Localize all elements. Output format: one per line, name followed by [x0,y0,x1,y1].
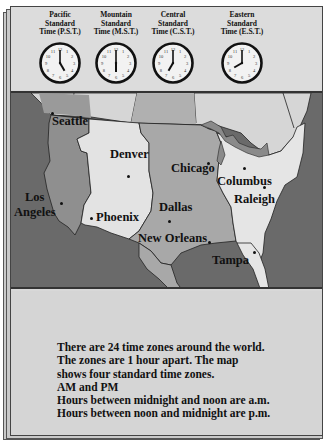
clock-icon: 123456789101112 [220,41,264,85]
time-zone-map: Seattle Denver Chicago Columbus Los Ange… [11,91,322,289]
svg-text:11: 11 [107,48,111,53]
info-line: Hours between noon and midnight are p.m. [57,407,270,420]
svg-text:10: 10 [228,54,233,59]
time-zone-page: Pacific Standard Time (P.S.T.) 123456789… [10,6,323,436]
svg-text:11: 11 [51,48,55,53]
svg-text:11: 11 [164,48,168,53]
svg-text:1: 1 [66,48,68,53]
city-dot-denver [127,175,130,178]
city-label-seattle: Seattle [52,115,88,128]
city-label-los: Los [25,191,44,204]
svg-text:10: 10 [159,54,164,59]
city-label-phoenix: Phoenix [96,211,139,224]
svg-text:10: 10 [102,54,107,59]
city-dot-new-orleans [208,241,211,244]
svg-text:2: 2 [127,54,129,59]
city-label-new-orleans: New Orleans [138,232,207,245]
city-dot-tampa [253,251,256,254]
svg-text:2: 2 [253,54,255,59]
info-text: There are 24 time zones around the world… [57,341,270,421]
city-label-dallas: Dallas [159,201,192,214]
info-line: Hours between midnight and noon are a.m. [57,394,270,407]
info-line: shows four standard time zones. [57,368,270,381]
clocks-panel: Pacific Standard Time (P.S.T.) 123456789… [11,7,322,90]
info-line: There are 24 time zones around the world… [57,341,270,354]
svg-text:1: 1 [248,48,250,53]
city-dot-phoenix [90,217,93,220]
info-line: The zones are 1 hour apart. The map [57,354,270,367]
city-label-raleigh: Raleigh [234,193,275,206]
svg-text:2: 2 [71,54,73,59]
clock-icon: 123456789101112 [94,41,138,85]
svg-text:11: 11 [233,48,237,53]
clock-central: Central Standard Time (C.S.T.) 123456789… [133,11,213,85]
svg-text:1: 1 [122,48,124,53]
info-panel: There are 24 time zones around the world… [11,291,322,435]
city-label-chicago: Chicago [171,162,215,175]
svg-text:2: 2 [184,54,186,59]
svg-text:1: 1 [179,48,181,53]
city-dot-dallas [168,220,171,223]
clock-eastern: Eastern Standard Time (E.S.T.) 123456789… [202,11,282,85]
info-heading-am-pm: AM and PM [57,381,270,394]
city-label-angeles: Angeles [14,206,56,219]
city-dot-los-angeles [60,202,63,205]
clock-label-line3: Time (E.S.T.) [202,28,282,37]
svg-text:10: 10 [46,54,51,59]
city-dot-columbus [243,167,246,170]
city-label-denver: Denver [110,148,149,161]
clock-label-line3: Time (C.S.T.) [133,28,213,37]
city-dot-raleigh [263,186,266,189]
city-label-tampa: Tampa [212,254,249,267]
clock-icon: 123456789101112 [151,41,195,85]
